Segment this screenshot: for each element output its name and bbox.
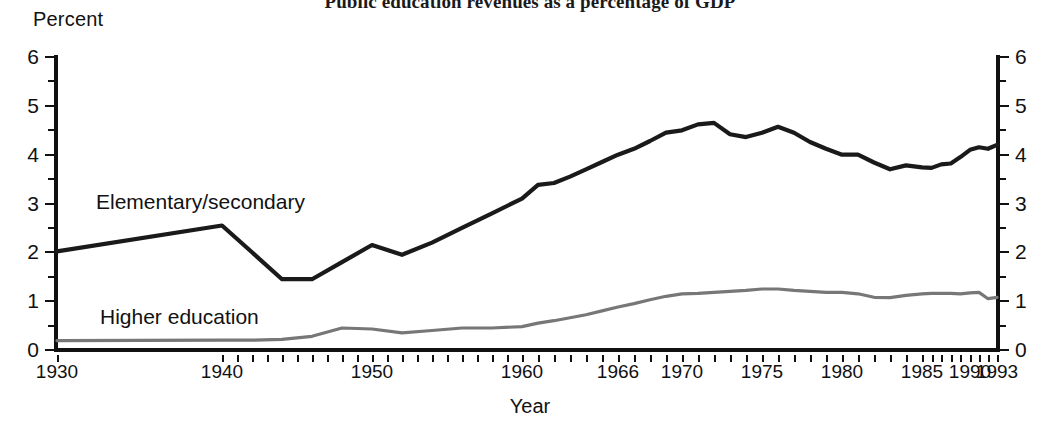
y-tick-right-1 <box>1000 300 1009 302</box>
x-tick-1983 <box>890 355 892 362</box>
y-tick-right-0.5 <box>1000 325 1006 327</box>
y-tick-left-0 <box>45 349 54 351</box>
x-tick-1952 <box>402 355 404 362</box>
y-tick-right-4.5 <box>1000 129 1006 131</box>
x-tick-1948 <box>342 355 344 362</box>
x-tick-1973 <box>730 355 732 362</box>
y-tick-left-3 <box>45 203 54 205</box>
x-tick-label-1930: 1930 <box>22 362 92 381</box>
x-tick-1963 <box>570 355 572 362</box>
x-tick-label-1950: 1950 <box>337 362 407 381</box>
y-tick-label-right-4: 4 <box>1015 144 1045 165</box>
x-tick-1964 <box>586 355 588 362</box>
y-tick-label-left-2: 2 <box>9 241 39 262</box>
y-tick-label-right-1: 1 <box>1015 290 1045 311</box>
y-tick-label-left-0: 0 <box>9 339 39 360</box>
y-tick-left-2.5 <box>48 227 54 229</box>
y-tick-left-1.5 <box>48 276 54 278</box>
x-tick-label-1993: 1993 <box>962 362 1032 381</box>
x-tick-label-1980: 1980 <box>807 362 877 381</box>
y-tick-left-4 <box>45 154 54 156</box>
x-tick-1978 <box>810 355 812 362</box>
y-tick-right-6 <box>1000 56 1009 58</box>
y-tick-label-left-1: 1 <box>9 290 39 311</box>
y-tick-left-4.5 <box>48 129 54 131</box>
x-tick-label-1960: 1960 <box>487 362 557 381</box>
y-tick-label-left-5: 5 <box>9 95 39 116</box>
y-tick-label-left-4: 4 <box>9 144 39 165</box>
chart-title: Public education revenues as a percentag… <box>0 0 1060 13</box>
y-tick-right-3 <box>1000 203 1009 205</box>
y-tick-right-4 <box>1000 154 1009 156</box>
x-tick-1958 <box>492 355 494 362</box>
y-tick-left-3.5 <box>48 178 54 180</box>
x-tick-label-1966: 1966 <box>583 362 653 381</box>
series-label-elementary-secondary: Elementary/secondary <box>96 190 305 214</box>
x-tick-1956 <box>462 355 464 362</box>
x-tick-1982 <box>874 355 876 362</box>
y-tick-left-6 <box>45 56 54 58</box>
x-tick-label-1970: 1970 <box>647 362 717 381</box>
y-tick-right-5 <box>1000 105 1009 107</box>
y-tick-right-1.5 <box>1000 276 1006 278</box>
x-tick-1942 <box>252 355 254 362</box>
y-tick-label-left-6: 6 <box>9 46 39 67</box>
x-tick-1947 <box>327 355 329 362</box>
y-tick-left-5.5 <box>48 80 54 82</box>
y-tick-right-2.5 <box>1000 227 1006 229</box>
x-tick-1953 <box>417 355 419 362</box>
chart-figure: Public education revenues as a percentag… <box>0 0 1060 433</box>
x-tick-1945 <box>297 355 299 362</box>
x-tick-1944 <box>282 355 284 362</box>
y-tick-label-left-3: 3 <box>9 193 39 214</box>
x-tick-1943 <box>267 355 269 362</box>
x-tick-1957 <box>477 355 479 362</box>
x-axis-title: Year <box>0 395 1060 418</box>
y-tick-right-2 <box>1000 251 1009 253</box>
y-tick-label-right-3: 3 <box>1015 193 1045 214</box>
y-tick-label-right-2: 2 <box>1015 241 1045 262</box>
y-tick-left-2 <box>45 251 54 253</box>
y-tick-right-0 <box>1000 349 1009 351</box>
x-tick-1968 <box>650 355 652 362</box>
x-tick-label-1975: 1975 <box>727 362 797 381</box>
x-tick-1962 <box>554 355 556 362</box>
y-tick-left-1 <box>45 300 54 302</box>
y-axis-unit-label: Percent <box>33 8 103 31</box>
y-tick-label-right-0: 0 <box>1015 339 1045 360</box>
y-tick-left-5 <box>45 105 54 107</box>
x-tick-label-1940: 1940 <box>187 362 257 381</box>
y-tick-label-right-6: 6 <box>1015 46 1045 67</box>
series-label-higher-education: Higher education <box>100 305 259 329</box>
x-tick-1946 <box>312 355 314 362</box>
x-tick-1955 <box>447 355 449 362</box>
x-tick-1954 <box>432 355 434 362</box>
x-tick-1977 <box>794 355 796 362</box>
y-tick-right-5.5 <box>1000 80 1006 82</box>
y-tick-right-3.5 <box>1000 178 1006 180</box>
x-tick-1972 <box>714 355 716 362</box>
y-tick-left-0.5 <box>48 325 54 327</box>
y-tick-label-right-5: 5 <box>1015 95 1045 116</box>
